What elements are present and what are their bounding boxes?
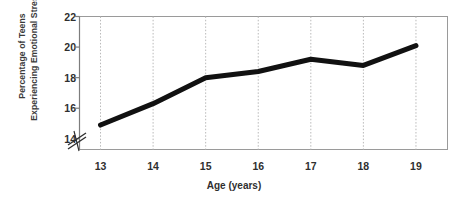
x-axis-tick-labels: 13141516171819 bbox=[0, 0, 468, 204]
x-axis-tick-label-13: 13 bbox=[86, 160, 116, 172]
x-axis-tick-label-14: 14 bbox=[138, 160, 168, 172]
x-axis-tick-label-17: 17 bbox=[296, 160, 326, 172]
line-chart: Percentage of Teens Experiencing Emotion… bbox=[0, 0, 468, 204]
x-axis-tick-label-18: 18 bbox=[348, 160, 378, 172]
x-axis-tick-label-16: 16 bbox=[243, 160, 273, 172]
x-axis-tick-label-19: 19 bbox=[401, 160, 431, 172]
x-axis-title: Age (years) bbox=[0, 180, 468, 191]
x-axis-tick-label-15: 15 bbox=[191, 160, 221, 172]
